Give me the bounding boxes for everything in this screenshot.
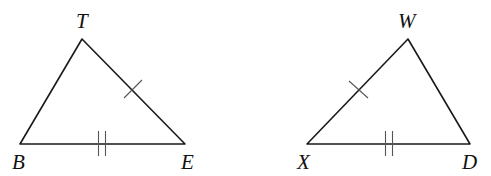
vertex-label-x: X bbox=[296, 150, 311, 174]
congruent-triangles-diagram: T B E W X D bbox=[0, 0, 491, 176]
vertex-label-d: D bbox=[461, 150, 477, 174]
triangle-tbe: T B E bbox=[12, 9, 194, 174]
triangle-wxd: W X D bbox=[296, 9, 477, 174]
vertex-label-w: W bbox=[398, 9, 418, 33]
triangle-wxd-outline bbox=[307, 39, 470, 144]
triangle-tbe-outline bbox=[20, 39, 185, 144]
vertex-label-t: T bbox=[76, 9, 89, 33]
vertex-label-b: B bbox=[12, 150, 25, 174]
vertex-label-e: E bbox=[180, 150, 194, 174]
single-tick-mark-te bbox=[124, 80, 142, 98]
